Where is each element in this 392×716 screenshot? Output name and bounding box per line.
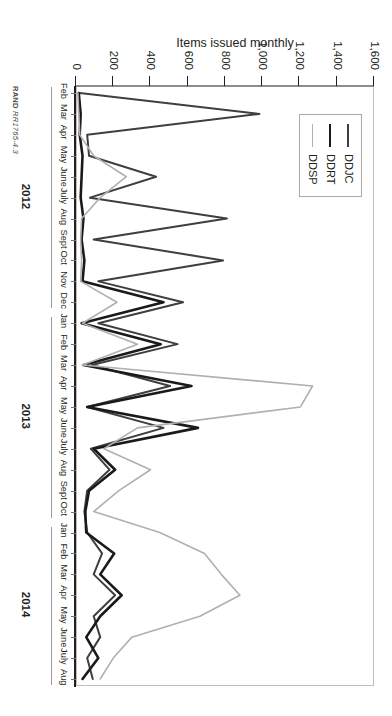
x-axis-tick-label: Apr [59, 585, 69, 599]
y-axis-tick [187, 76, 188, 86]
x-axis-tick-label: Feb [59, 334, 69, 350]
rotated-figure-wrapper: Items issued monthly 02004006008001,0001… [0, 0, 392, 716]
x-axis-tick-label: Mar [59, 104, 69, 120]
x-axis-tick-label: Jan [59, 313, 69, 328]
x-axis-tick-label: June [59, 627, 69, 647]
y-axis-tick [75, 76, 76, 86]
x-axis-tick-label: May [59, 606, 69, 624]
legend-label: DDRT [325, 154, 336, 184]
x-axis-tick-label: Mar [59, 355, 69, 371]
x-axis-tick-label: Mar [59, 564, 69, 580]
y-axis-tick-label: 800 [220, 0, 232, 70]
x-axis-tick-label: Aug [59, 209, 69, 226]
figure-credit: RAND RR1765-4.3 [11, 86, 20, 154]
legend-label: DDSP [307, 154, 318, 185]
year-group-rule [51, 87, 52, 308]
legend-swatch-icon [330, 124, 332, 147]
legend-item-ddjc[interactable]: DDJC [343, 124, 354, 185]
series-line-ddjc [80, 93, 260, 679]
x-axis-tick-label: July [59, 188, 69, 205]
y-axis-tick-label: 600 [182, 0, 194, 70]
year-group-rule [51, 527, 52, 686]
x-axis-tick-label: June [59, 167, 69, 187]
legend-item-ddrt[interactable]: DDRT [325, 124, 336, 185]
legend-label: DDJC [343, 154, 354, 183]
x-axis-tick-label: May [59, 146, 69, 164]
x-axis-tick-label: July [59, 648, 69, 665]
y-axis-tick-label: 1,400 [331, 0, 343, 70]
y-axis-tick-label: 200 [108, 0, 120, 70]
figure-root: Items issued monthly 02004006008001,0001… [0, 0, 392, 716]
series-line-ddsp [78, 93, 313, 679]
x-axis-tick-label: Sept [59, 230, 69, 249]
y-axis-tick [373, 76, 374, 86]
x-axis-tick-label: Apr [59, 125, 69, 139]
year-group-label: 2014 [20, 592, 32, 618]
y-axis-tick [224, 76, 225, 86]
series-line-ddrt [79, 93, 198, 679]
y-axis-tick-label: 0 [71, 0, 83, 70]
x-axis-tick-label: Aug [59, 669, 69, 686]
legend-swatch-icon [312, 124, 313, 147]
y-axis-tick [261, 76, 262, 86]
x-axis-tick-label: Sept [59, 481, 69, 500]
chart-legend: DDJCDDRTDDSP [299, 114, 362, 197]
y-axis-tick-label: 400 [145, 0, 157, 70]
credit-prefix: RAND [11, 86, 20, 109]
x-axis-tick-label: July [59, 439, 69, 456]
y-axis-tick [336, 76, 337, 86]
x-axis-tick-label: Feb [59, 543, 69, 559]
x-axis-tick-label: Oct [59, 502, 69, 516]
chart-figure: Items issued monthly 02004006008001,0001… [0, 0, 392, 716]
y-axis-tick-label: 1,600 [369, 0, 381, 70]
y-axis-tick [150, 76, 151, 86]
y-axis-tick-label: 1,200 [294, 0, 306, 70]
y-axis-tick [299, 76, 300, 86]
x-axis-tick-label: May [59, 397, 69, 415]
y-axis-tick-label: 1,000 [257, 0, 269, 70]
x-axis-tick-label: June [59, 418, 69, 438]
y-axis-tick [112, 76, 113, 86]
x-axis-tick-label: Aug [59, 460, 69, 477]
year-group-rule [51, 317, 52, 517]
x-axis-tick-label: Nov [59, 271, 69, 288]
x-axis-tick-label: Feb [59, 83, 69, 99]
legend-swatch-icon [348, 124, 350, 147]
credit-id: RR1765-4.3 [11, 111, 20, 154]
year-group-label: 2012 [20, 184, 32, 210]
x-axis-tick-label: Apr [59, 376, 69, 390]
year-group-label: 2013 [20, 403, 32, 429]
legend-item-ddsp[interactable]: DDSP [307, 124, 318, 185]
x-axis-tick-label: Jan [59, 523, 69, 538]
x-axis-tick-label: Oct [59, 250, 69, 264]
x-axis-tick-label: Dec [59, 292, 69, 309]
